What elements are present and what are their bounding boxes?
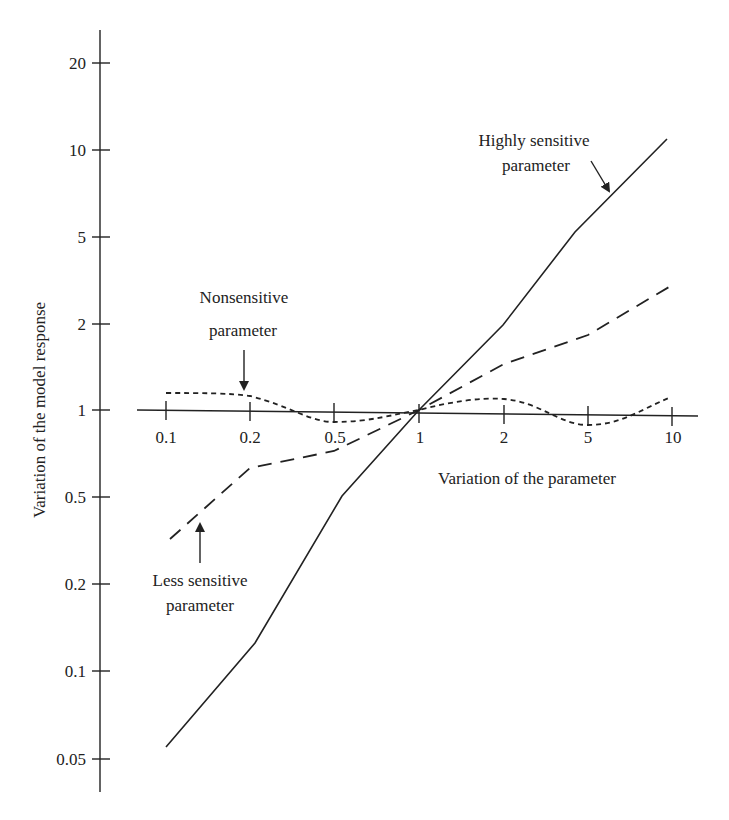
x-tick-labels: 0.1 0.2 0.5 1 2 5 10 (155, 428, 681, 447)
y-tick-label: 0.5 (65, 488, 86, 507)
x-tick-label: 1 (416, 428, 425, 447)
annotation-nonsensitive: Nonsensitive parameter (200, 288, 289, 389)
x-tick-label: 2 (500, 428, 509, 447)
y-tick-label: 2 (78, 315, 87, 334)
x-tick-label: 0.1 (155, 428, 176, 447)
x-tick-label: 0.5 (324, 428, 345, 447)
annotation-text: Highly sensitive (479, 131, 590, 150)
annotation-text: parameter (209, 321, 277, 340)
annotation-highly-sensitive: Highly sensitive parameter (479, 131, 609, 191)
annotation-text: parameter (502, 156, 570, 175)
y-tick-label: 0.1 (65, 662, 86, 681)
y-tick-label: 0.2 (65, 575, 86, 594)
x-tick-label: 10 (665, 428, 682, 447)
annotation-text: Nonsensitive (200, 288, 289, 307)
x-axis (137, 401, 698, 426)
y-tick-label: 20 (69, 54, 86, 73)
sensitivity-chart: 20 10 5 2 1 0.5 0.2 0.1 0.05 Variation o… (0, 0, 729, 820)
y-tick-label: 1 (78, 401, 87, 420)
y-tick-label: 0.05 (56, 750, 86, 769)
annotation-less-sensitive: Less sensitive parameter (153, 524, 248, 615)
x-tick-label: 5 (584, 428, 593, 447)
y-tick-label: 5 (78, 228, 87, 247)
annotation-text: Less sensitive (153, 571, 248, 590)
y-tick-label: 10 (69, 141, 86, 160)
y-axis-title: Variation of the model response (30, 302, 49, 518)
x-tick-label: 0.2 (239, 428, 260, 447)
x-axis-title: Variation of the parameter (438, 469, 616, 488)
y-tick-labels: 20 10 5 2 1 0.5 0.2 0.1 0.05 (56, 54, 86, 769)
annotation-text: parameter (166, 596, 234, 615)
arrow-icon (591, 161, 609, 191)
y-axis (92, 30, 110, 792)
